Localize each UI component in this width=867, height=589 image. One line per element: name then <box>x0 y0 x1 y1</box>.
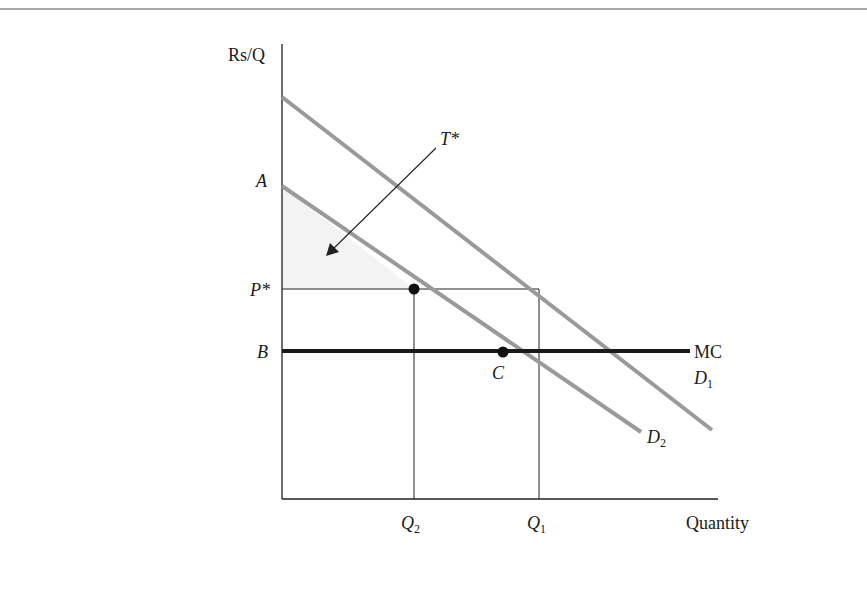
label-q2: Q2 <box>401 514 420 535</box>
t-star-arrow <box>332 148 436 250</box>
label-q1: Q1 <box>527 514 546 535</box>
label-a: A <box>256 172 267 190</box>
x-axis-label: Quantity <box>686 514 749 532</box>
label-p-star: P* <box>250 281 270 299</box>
label-d2: D2 <box>647 428 666 449</box>
point-c <box>498 347 509 358</box>
label-d1: D1 <box>694 369 713 390</box>
label-mc: MC <box>694 343 722 361</box>
diagram-canvas <box>0 0 867 589</box>
y-axis-label: Rs/Q <box>228 46 265 64</box>
label-t-star: T* <box>440 130 459 148</box>
point-p-star-q2 <box>409 284 420 295</box>
demand-curve-d2 <box>282 186 641 432</box>
label-c: C <box>492 364 504 382</box>
label-b: B <box>257 343 268 361</box>
